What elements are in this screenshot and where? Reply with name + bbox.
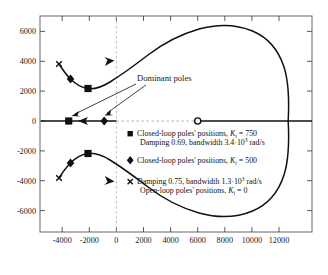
legend-entry-1-line1: Closed-loop poles' positions, Ki = 500 xyxy=(137,156,257,166)
x-tick-labels: -4000 -2000 0 2000 4000 6000 8000 10000 … xyxy=(53,236,290,245)
x-tick-label: 12000 xyxy=(269,236,289,245)
x-tick-label: -4000 xyxy=(53,236,72,245)
x-tick-label: 8000 xyxy=(217,236,233,245)
plot-frame xyxy=(40,16,312,232)
y-tick-label: -6000 xyxy=(17,207,36,216)
y-tick-label: 2000 xyxy=(20,87,36,96)
y-tick-label: 4000 xyxy=(20,57,36,66)
y-tick-label: 0 xyxy=(32,117,36,126)
x-tick-label: 10000 xyxy=(242,236,262,245)
legend-marker-square xyxy=(128,131,133,136)
y-tick-labels: 6000 4000 2000 0 -2000 -4000 -6000 xyxy=(17,27,36,215)
x-tick-label: 6000 xyxy=(190,236,206,245)
x-tick-label: 0 xyxy=(114,236,118,245)
root-locus-plot: 6000 4000 2000 0 -2000 -4000 -6000 -4000… xyxy=(0,0,328,275)
y-tick-label: -4000 xyxy=(17,177,36,186)
marker-circle-open-loop-zero xyxy=(195,118,201,124)
legend-entry-0: Closed-loop poles' positions, Ki = 750 D… xyxy=(128,129,265,147)
legend-entry-2: Damping 0.75, bandwidth 1.3·103 rad/s Op… xyxy=(128,176,262,196)
x-tick-label: 2000 xyxy=(135,236,151,245)
x-tick-label: -2000 xyxy=(80,236,99,245)
legend-entry-2-line2: Open-loop poles' positions, Ki = 0 xyxy=(140,186,247,196)
root-figure: 6000 4000 2000 0 -2000 -4000 -6000 -4000… xyxy=(0,0,328,275)
dominant-poles-label: Dominant poles xyxy=(137,73,192,83)
y-tick-label: -2000 xyxy=(17,147,36,156)
y-tick-label: 6000 xyxy=(20,27,36,36)
legend-entry-1: Closed-loop poles' positions, Ki = 500 xyxy=(127,156,257,166)
x-tick-label: 4000 xyxy=(162,236,178,245)
